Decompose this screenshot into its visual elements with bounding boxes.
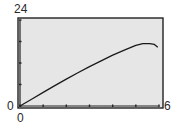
plot-area	[0, 0, 176, 126]
